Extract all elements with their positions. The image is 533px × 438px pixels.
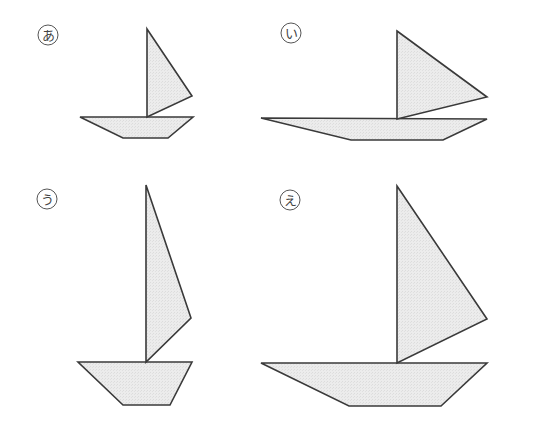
boat-label: あ [38, 25, 58, 45]
boat-label: う [37, 189, 57, 209]
hull [80, 117, 193, 138]
label-text: う [41, 192, 54, 207]
sail [147, 29, 192, 117]
sail [397, 186, 487, 363]
label-text: い [285, 26, 298, 41]
boat-i: い [261, 23, 487, 140]
sail [146, 185, 191, 362]
hull [261, 363, 487, 406]
hull [78, 362, 192, 405]
boat-a: あ [38, 25, 193, 138]
boat-label: え [280, 190, 300, 210]
boat-label: い [281, 23, 301, 43]
label-text: あ [42, 28, 55, 43]
hull [261, 118, 487, 140]
sailboat-diagram: あ い う え [0, 0, 533, 438]
boat-u: う [37, 185, 192, 405]
boat-e: え [261, 186, 487, 406]
label-text: え [284, 193, 297, 208]
sail [397, 31, 487, 119]
